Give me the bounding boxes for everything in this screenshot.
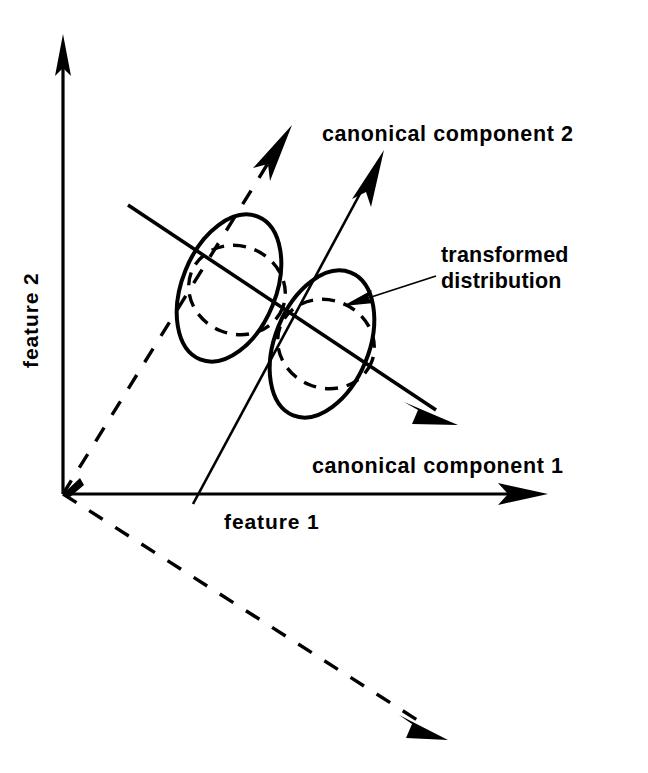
x-axis-group bbox=[63, 483, 548, 505]
x-axis-label: feature 1 bbox=[224, 510, 320, 533]
y-axis-label: feature 2 bbox=[19, 272, 42, 368]
canonical-component-1-line bbox=[128, 205, 436, 410]
transformed-distribution-pointer-line bbox=[362, 276, 436, 300]
dashed-axis-upper-arrowhead bbox=[253, 125, 292, 181]
diagram-canvas: feature 1 feature 2 canonical component … bbox=[0, 0, 648, 773]
distributions-group bbox=[157, 199, 395, 433]
dashed-axis-lower-arrowhead bbox=[399, 715, 448, 740]
y-axis-group bbox=[55, 34, 71, 494]
figure-root: feature 1 feature 2 canonical component … bbox=[0, 0, 648, 773]
transformed-distribution-callout-group bbox=[343, 276, 436, 306]
dashed-axis-upper-line bbox=[63, 152, 275, 494]
canonical-component-2-label: canonical component 2 bbox=[322, 122, 574, 146]
transformed-distribution-label-line2: distribution bbox=[441, 269, 562, 293]
transformed-distribution-label-line1: transformed bbox=[441, 243, 569, 267]
canonical-component-2-group bbox=[193, 150, 384, 504]
canonical-component-1-label: canonical component 1 bbox=[312, 454, 564, 478]
